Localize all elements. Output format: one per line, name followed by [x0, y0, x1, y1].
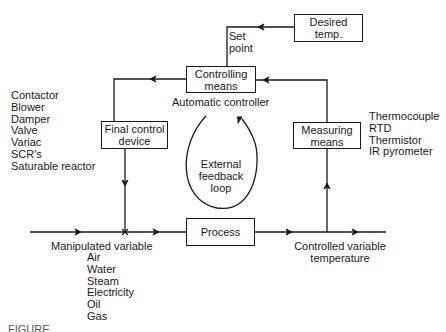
example-item: Saturable reactor [11, 161, 95, 173]
desired-temp-box: Desired temp. [294, 14, 363, 42]
arrow-loop [237, 117, 242, 123]
set-point-label: Set point [229, 30, 253, 54]
final-control-examples-list: Contactor Blower Damper Valve Variac SCR… [11, 90, 95, 173]
example-item: Water [87, 264, 134, 276]
external-feedback-loop-label: External feedback loop [196, 158, 246, 194]
final-control-device-box: Final control device [101, 121, 168, 149]
measuring-means-box: Measuring means [293, 122, 361, 149]
example-item: Gas [87, 311, 134, 323]
automatic-controller-label: Automatic controller [172, 96, 269, 108]
figure-caption-clipped: FIGURE [8, 324, 348, 332]
example-item: SCR's [11, 149, 95, 161]
measuring-examples-list: Thermocouple RTD Thermistor IR pyrometer [369, 111, 439, 158]
controlled-variable-label: Controlled variable temperature [290, 240, 390, 264]
controlling-means-box: Controlling means [186, 66, 256, 93]
example-item: IR pyrometer [369, 146, 439, 158]
example-item: RTD [369, 123, 439, 135]
example-item: Blower [11, 102, 95, 114]
manipulated-variable-label: Manipulated variable [51, 240, 153, 252]
process-box: Process [186, 218, 255, 246]
manipulated-examples-list: Air Water Steam Electricity Oil Gas [87, 252, 134, 323]
